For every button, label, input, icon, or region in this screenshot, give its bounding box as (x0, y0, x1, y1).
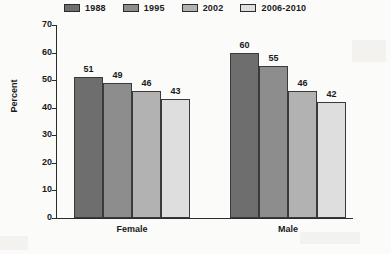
legend-item-1988: 1988 (64, 3, 106, 13)
bar-value-label: 51 (74, 64, 103, 74)
bar (288, 91, 317, 218)
y-axis-title: Percent (9, 79, 19, 112)
bar (317, 102, 346, 218)
y-axis-tick-label: 70 (42, 19, 52, 29)
y-axis-tick-mark (52, 135, 57, 136)
y-axis-tick-mark (52, 190, 57, 191)
bar (103, 83, 132, 218)
legend-item-2006-2010: 2006-2010 (240, 3, 306, 13)
y-axis-line (56, 25, 57, 218)
bar (161, 99, 190, 218)
x-axis-group-label: Male (230, 224, 346, 234)
bar (259, 66, 288, 218)
legend-swatch-2002 (182, 4, 198, 12)
y-axis-tick-label: 20 (42, 157, 52, 167)
y-axis-tick-mark (52, 80, 57, 81)
bar (230, 53, 259, 218)
plot-area: 010203040506070 5149464360554642 FemaleM… (56, 25, 351, 218)
y-axis-tick-label: 40 (42, 102, 52, 112)
x-axis-group-label: Female (74, 224, 190, 234)
x-axis-line (54, 218, 353, 219)
y-axis-tick-label: 60 (42, 47, 52, 57)
bar-value-label: 42 (317, 89, 346, 99)
legend-label-2002: 2002 (203, 3, 224, 13)
paper-artifact (352, 40, 386, 62)
legend-label-1988: 1988 (85, 3, 106, 13)
legend-item-1995: 1995 (123, 3, 165, 13)
bar-value-label: 46 (288, 78, 317, 88)
bar (132, 91, 161, 218)
legend-swatch-2006-2010 (240, 4, 256, 12)
legend-item-2002: 2002 (182, 3, 224, 13)
y-axis-tick-mark (52, 218, 57, 219)
bar-value-label: 46 (132, 78, 161, 88)
paper-artifact (0, 236, 28, 250)
y-axis-tick-mark (52, 25, 57, 26)
legend-swatch-1995 (123, 4, 139, 12)
bar (74, 77, 103, 218)
legend-label-1995: 1995 (144, 3, 165, 13)
legend-swatch-1988 (64, 4, 80, 12)
y-axis-tick-mark (52, 108, 57, 109)
y-axis-tick-label: 0 (47, 212, 52, 222)
bar-value-label: 43 (161, 86, 190, 96)
y-axis-tick-mark (52, 163, 57, 164)
bar-value-label: 60 (230, 40, 259, 50)
y-axis-tick-label: 30 (42, 129, 52, 139)
bar-chart: 1988 1995 2002 2006-2010 Percent 0102030… (0, 0, 391, 254)
y-axis-tick-label: 50 (42, 74, 52, 84)
bar-value-label: 49 (103, 70, 132, 80)
y-axis-tick-label: 10 (42, 184, 52, 194)
bar-value-label: 55 (259, 53, 288, 63)
y-axis-tick-mark (52, 53, 57, 54)
legend-label-2006-2010: 2006-2010 (261, 3, 306, 13)
legend: 1988 1995 2002 2006-2010 (64, 3, 323, 13)
